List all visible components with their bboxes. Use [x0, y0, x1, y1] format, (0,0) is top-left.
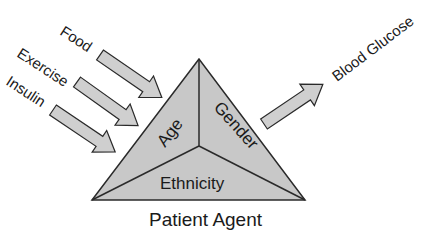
patient-agent-title: Patient Agent	[149, 209, 263, 230]
food-label: Food	[57, 22, 95, 55]
blood-glucose-arrow	[257, 74, 330, 135]
insulin-label: Insulin	[3, 72, 49, 110]
ethnicity-face-label: Ethnicity	[160, 174, 225, 193]
diagram-canvas: Food Exercise Insulin Blood Glucose Age …	[0, 0, 421, 232]
blood-glucose-label: Blood Glucose	[329, 12, 417, 84]
